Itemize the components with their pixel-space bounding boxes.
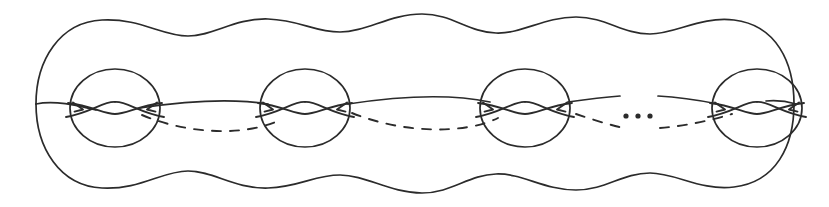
equator-solid-segment-5	[658, 96, 718, 104]
equator-dashed-segment-3	[576, 114, 624, 128]
equator-dashed-group	[142, 113, 732, 131]
handle-2-circle	[260, 69, 350, 147]
handle-3-circle	[480, 69, 570, 147]
equator-solid-segment-4	[568, 96, 620, 102]
ellipsis-dots	[623, 113, 652, 118]
handle-2	[256, 69, 354, 147]
handle-3	[476, 69, 574, 147]
surface-outline	[36, 14, 794, 193]
outline-top-wave	[36, 14, 794, 104]
equator-dashed-segment-4	[660, 114, 732, 128]
equator-solid-segment-6	[766, 101, 796, 104]
handle-1-circle	[70, 69, 160, 147]
ellipsis-dot-3	[647, 113, 652, 118]
handle-1	[66, 69, 164, 147]
handle-g-circle	[712, 69, 802, 147]
figure-root	[0, 0, 829, 207]
equator-dashed-segment-2	[352, 113, 498, 129]
ellipsis-dot-1	[623, 113, 628, 118]
handles-layer	[66, 69, 806, 147]
ellipsis-dot-2	[635, 113, 640, 118]
genus-surface-diagram	[0, 0, 829, 207]
equator-solid-segment-3	[348, 97, 490, 104]
